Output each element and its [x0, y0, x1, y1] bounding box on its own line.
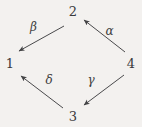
commutative-diagram: 2 1 4 3 β α δ γ: [0, 0, 142, 127]
edge-label-gamma: γ: [85, 74, 97, 86]
node-label-2: 2: [66, 5, 80, 18]
arrow-beta-2-to-1: [19, 26, 64, 51]
node-label-1: 1: [3, 57, 17, 70]
node-label-3: 3: [66, 110, 80, 123]
arrow-delta-3-to-1: [21, 76, 63, 108]
diagram-arrows-canvas: [0, 0, 142, 127]
edge-label-delta: δ: [43, 74, 55, 86]
edge-label-beta: β: [27, 21, 40, 33]
node-label-4: 4: [124, 57, 138, 70]
edge-label-alpha: α: [103, 25, 116, 37]
